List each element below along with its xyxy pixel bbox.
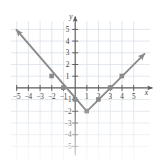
coordinate-plane-figure: −5 −4 −3 −2 −1 1 2 3 4 5 5 4 3 2 1 −1 −2… (0, 0, 167, 166)
page-fade-overlay (0, 0, 167, 166)
graph-svg: −5 −4 −3 −2 −1 1 2 3 4 5 5 4 3 2 1 −1 −2… (0, 0, 167, 166)
